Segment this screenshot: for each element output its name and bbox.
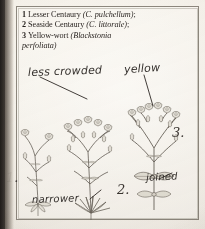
annotation-less-crowded: less crowded (28, 63, 103, 79)
plant-2-narrow-leaves (75, 196, 110, 220)
scanned-page: 1 Lesser Centaury (C. pulchellum); 2 Sea… (0, 0, 205, 229)
plant-label-2: 2. (117, 182, 129, 197)
annotation-yellow: yellow (124, 61, 161, 76)
caption-line-1: 1 Lesser Centaury (C. pulchellum); (22, 10, 174, 20)
plant-label-3: 3. (172, 125, 184, 140)
annotation-narrower: narrower (32, 192, 79, 205)
annotation-joined: joined (146, 170, 178, 183)
caption-line-2: 2 Seaside Centaury (C. littorale); (22, 20, 174, 30)
leader-narrower (90, 190, 101, 199)
caption-line-3: 3 Yellow-wort (Blackstonia (22, 31, 174, 41)
caption-block: 1 Lesser Centaury (C. pulchellum); 2 Sea… (22, 10, 174, 52)
leader-yellow (144, 75, 153, 106)
leader-less-crowded (40, 77, 87, 99)
caption-line-4: perfoliata) (22, 41, 174, 51)
plant-3-yellow-wort (128, 103, 180, 210)
plant-2-seaside-centaury (64, 117, 112, 220)
book-spine-edge (0, 0, 5, 229)
